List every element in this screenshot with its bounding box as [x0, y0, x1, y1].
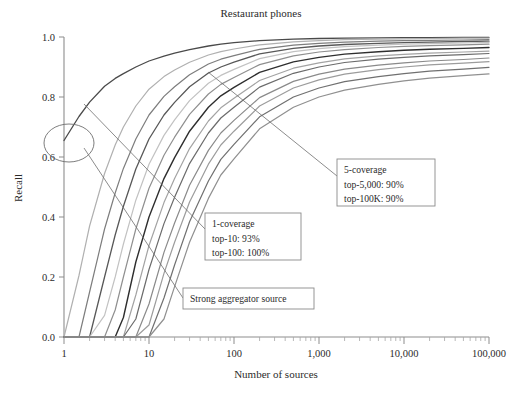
- x-tick-label: 10,000: [390, 348, 419, 359]
- annotation-line: top-100K: 90%: [344, 193, 403, 204]
- annotation-line: top-100: 100%: [212, 247, 269, 258]
- annotation-line: 5-coverage: [344, 164, 387, 175]
- annotation-one-coverage: 1-coveragetop-10: 93%top-100: 100%: [205, 213, 301, 260]
- y-tick-label: 0.4: [42, 212, 56, 223]
- x-tick-label: 1,000: [307, 348, 331, 359]
- annotation-line: 1-coverage: [212, 218, 255, 229]
- annotation-line: top-5,000: 90%: [344, 179, 404, 190]
- y-axis-title: Recall: [12, 174, 24, 202]
- chart-background: [0, 0, 523, 393]
- annotation-line: Strong aggregator source: [190, 293, 286, 304]
- y-tick-label: 0.2: [42, 272, 55, 283]
- x-tick-label: 1: [61, 348, 66, 359]
- annotation-five-coverage: 5-coveragetop-5,000: 90%top-100K: 90%: [337, 159, 435, 206]
- recall-vs-sources-chart: Restaurant phones 0.00.20.40.60.81.0 Rec…: [0, 0, 523, 393]
- x-tick-label: 100,000: [472, 348, 506, 359]
- chart-title: Restaurant phones: [221, 7, 302, 19]
- x-tick-label: 10: [144, 348, 155, 359]
- y-tick-label: 0.0: [42, 332, 55, 343]
- annotation-strong-aggregator-source: Strong aggregator source: [183, 288, 314, 309]
- x-tick-label: 100: [226, 348, 242, 359]
- y-tick-label: 0.8: [42, 92, 55, 103]
- x-axis-title: Number of sources: [234, 368, 318, 380]
- y-tick-label: 1.0: [42, 32, 55, 43]
- chart-figure: Restaurant phones 0.00.20.40.60.81.0 Rec…: [0, 0, 523, 393]
- annotation-line: top-10: 93%: [212, 233, 260, 244]
